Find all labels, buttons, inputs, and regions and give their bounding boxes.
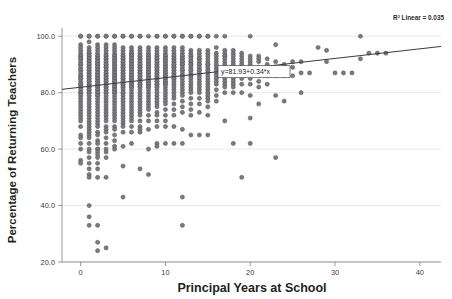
data-point [274, 43, 278, 47]
data-point [121, 195, 125, 199]
data-point [138, 167, 142, 171]
data-point [189, 34, 193, 38]
data-point [155, 124, 159, 128]
data-point [206, 34, 210, 38]
data-point [79, 136, 83, 140]
data-point [163, 124, 167, 128]
equation-label-text: y=81.93+0.34*x [221, 68, 271, 76]
data-point [172, 102, 176, 106]
data-point [96, 167, 100, 171]
data-point [265, 57, 269, 61]
data-point [79, 119, 83, 123]
data-point [104, 155, 108, 159]
data-point [189, 91, 193, 95]
x-tick-label: 40 [416, 268, 424, 277]
data-point [112, 34, 116, 38]
data-point [87, 136, 91, 140]
data-point [129, 119, 133, 123]
data-point [146, 147, 150, 151]
data-point [189, 113, 193, 117]
data-point [180, 99, 184, 103]
data-point [138, 130, 142, 134]
data-point [189, 133, 193, 137]
data-point [197, 91, 201, 95]
data-point [146, 127, 150, 131]
data-point [96, 249, 100, 253]
data-point [299, 91, 303, 95]
data-point [129, 130, 133, 134]
data-point [112, 127, 116, 131]
data-point [197, 34, 201, 38]
data-point [146, 113, 150, 117]
data-point [231, 141, 235, 145]
data-point [87, 40, 91, 44]
data-point [206, 99, 210, 103]
data-point [291, 65, 295, 69]
data-point [104, 119, 108, 123]
data-point [112, 119, 116, 123]
data-point [155, 105, 159, 109]
data-point [104, 141, 108, 145]
data-point [189, 96, 193, 100]
y-tick-label: 20.0 [41, 258, 55, 267]
data-point [214, 88, 218, 92]
data-point [172, 34, 176, 38]
data-point [307, 71, 311, 75]
data-point [155, 119, 159, 123]
data-point [112, 133, 116, 137]
data-point [112, 139, 116, 143]
data-point [79, 141, 83, 145]
data-point [163, 108, 167, 112]
data-point [333, 71, 337, 75]
data-point [155, 34, 159, 38]
data-point [299, 71, 303, 75]
data-point [87, 223, 91, 227]
data-point [257, 102, 261, 106]
data-point [189, 102, 193, 106]
data-point [79, 34, 83, 38]
data-point [155, 144, 159, 148]
data-point [163, 141, 167, 145]
data-point [274, 155, 278, 159]
data-point [180, 93, 184, 97]
data-point [121, 164, 125, 168]
data-point [155, 113, 159, 117]
data-point [248, 93, 252, 97]
data-point [324, 48, 328, 52]
data-point [104, 175, 108, 179]
x-tick-label: 20 [246, 268, 254, 277]
data-point [87, 34, 91, 38]
data-point [96, 240, 100, 244]
data-point [214, 45, 218, 49]
y-tick-label: 40.0 [41, 201, 55, 210]
data-point [121, 34, 125, 38]
data-point [180, 195, 184, 199]
data-point [248, 82, 252, 86]
data-point [223, 85, 227, 89]
data-point [87, 203, 91, 207]
data-point [197, 133, 201, 137]
data-point [197, 102, 201, 106]
data-point [87, 175, 91, 179]
data-point [87, 150, 91, 154]
data-point [138, 34, 142, 38]
x-axis-ticks: 010203040 [79, 262, 424, 277]
data-point [96, 161, 100, 165]
data-point [96, 175, 100, 179]
data-point [163, 119, 167, 123]
data-point [350, 71, 354, 75]
data-point [324, 60, 328, 64]
r-squared-annotation: R² Linear = 0.035 [393, 14, 444, 21]
data-point [104, 246, 108, 250]
data-point [96, 155, 100, 159]
data-point [96, 223, 100, 227]
data-point [87, 155, 91, 159]
data-point [180, 105, 184, 109]
data-point [180, 141, 184, 145]
data-point [206, 113, 210, 117]
data-point [163, 113, 167, 117]
data-point [180, 223, 184, 227]
y-tick-label: 60.0 [41, 145, 55, 154]
data-point [180, 127, 184, 131]
x-axis-title: Principal Years at School [177, 281, 326, 295]
